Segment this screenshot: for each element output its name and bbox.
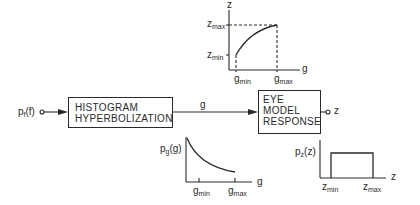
pg-gmax-main: g [228, 185, 234, 196]
pg-plot-x-axis-label: g [257, 177, 263, 187]
pz-zmin-sub: min [327, 186, 338, 193]
gmax-main: g [274, 73, 280, 84]
pz-plot-y-label: pz(z) [295, 147, 316, 158]
gmin-sub: min [240, 78, 251, 85]
pg-plot-gmax-label: gmax [228, 186, 247, 197]
pz-zmax-sub: max [368, 186, 381, 193]
top-plot-y-axis-label: z [227, 0, 232, 10]
top-plot-zmax-label: zmax [207, 19, 225, 30]
pg-main: p [160, 143, 166, 154]
zmax-sub: max [212, 23, 225, 30]
pg-plot-y-label: pg(g) [160, 144, 182, 155]
input-label-sub: f [24, 111, 26, 118]
input-label-main: p [18, 106, 24, 117]
block2-line3: RESPONSE [263, 116, 316, 127]
gmin-main: g [234, 73, 240, 84]
zmin-sub: min [212, 54, 223, 61]
signal-g-label: g [200, 100, 206, 110]
pg-plot-gmin-label: gmin [193, 186, 210, 197]
gmax-sub: max [280, 78, 293, 85]
output-terminal [326, 110, 330, 114]
block2-line1: EYE [263, 94, 316, 105]
top-plot-zmin-label: zmin [207, 50, 223, 61]
pg-arg: (g) [169, 143, 181, 154]
output-z-label: z [334, 106, 339, 116]
pz-plot-zmin-label: zmin [322, 182, 338, 193]
pg-sub: g [166, 148, 170, 155]
input-terminal [40, 110, 44, 114]
pz-sub: z [301, 151, 305, 158]
input-label-arg: (f) [26, 106, 35, 117]
pg-gmin-main: g [193, 185, 199, 196]
top-plot-x-axis-label: g [302, 64, 308, 74]
top-plot-gmin-label: gmin [234, 74, 251, 85]
pz-plot-x-axis-label: z [391, 172, 396, 182]
pg-gmin-sub: min [199, 190, 210, 197]
pz-arg: (z) [304, 146, 316, 157]
top-plot-gmax-label: gmax [274, 74, 293, 85]
block1-line2: HYPERBOLIZATION [75, 113, 166, 124]
input-label: pf(f) [18, 107, 35, 118]
pg-gmax-sub: max [234, 190, 247, 197]
pz-plot-zmax-label: zmax [363, 182, 381, 193]
histogram-hyperbolization-block: HISTOGRAM HYPERBOLIZATION [68, 97, 173, 128]
pz-main: p [295, 146, 301, 157]
block1-line1: HISTOGRAM [75, 102, 166, 113]
diagram-lines [0, 0, 420, 205]
eye-model-response-block: EYE MODEL RESPONSE [258, 90, 321, 134]
block2-line2: MODEL [263, 105, 316, 116]
